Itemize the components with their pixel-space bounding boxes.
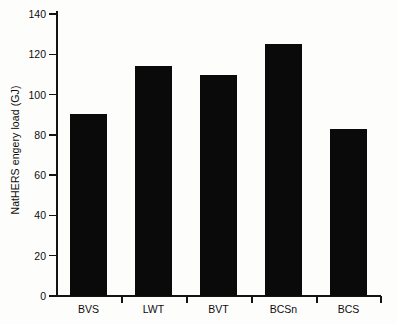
- bar: [135, 66, 172, 296]
- x-axis-tick-mark: [380, 296, 382, 303]
- y-axis-tick-label: 40: [0, 209, 56, 221]
- x-axis-tick-mark: [186, 296, 188, 303]
- x-axis-category-label: BCS: [309, 303, 389, 315]
- x-axis-tick-mark: [121, 296, 123, 303]
- y-axis-line: [56, 11, 58, 297]
- y-axis-title-text: NatHERS engery load (GJ): [9, 85, 21, 214]
- y-axis-tick-label: 20: [0, 250, 56, 262]
- bar: [200, 75, 237, 296]
- x-axis-tick-mark: [316, 296, 318, 303]
- y-axis-tick-label: 140: [0, 8, 56, 20]
- y-axis-tick-label: 120: [0, 48, 56, 60]
- y-axis-tick-label: 100: [0, 89, 56, 101]
- y-axis-tick-label: 60: [0, 169, 56, 181]
- bar: [330, 129, 367, 296]
- y-axis-tick-label: 80: [0, 129, 56, 141]
- x-axis-tick-mark: [251, 296, 253, 303]
- bar: [265, 44, 302, 296]
- y-axis-tick-label: 0: [0, 290, 56, 302]
- bar: [70, 114, 107, 296]
- bar-chart-figure: NatHERS engery load (GJ) 020406080100120…: [0, 0, 397, 324]
